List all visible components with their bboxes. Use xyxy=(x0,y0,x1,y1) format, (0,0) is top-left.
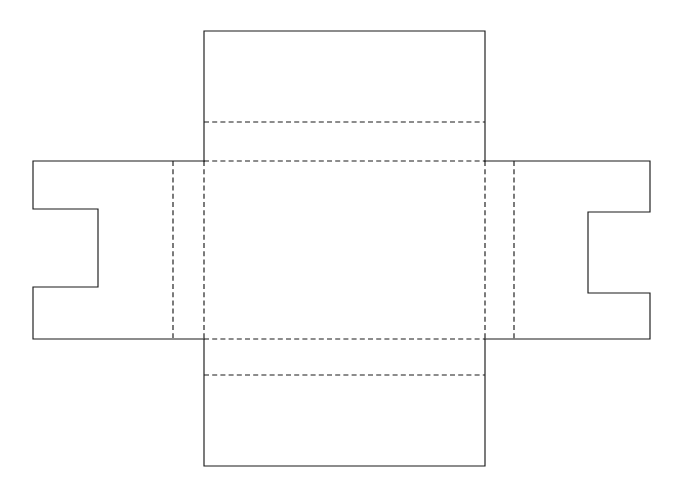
bottom-flap-area xyxy=(204,339,485,466)
top-flap-area xyxy=(204,31,485,161)
center-panel-area xyxy=(204,161,485,339)
dieline-drawing xyxy=(0,0,686,498)
